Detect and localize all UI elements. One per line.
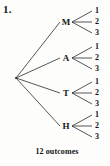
leaf-line-m-3 bbox=[72, 22, 92, 33]
outcomes-caption: 12 outcomes bbox=[35, 148, 78, 156]
tree-diagram-lines bbox=[0, 0, 110, 166]
problem-number-label: 1. bbox=[3, 4, 12, 15]
leaf-line-t-1 bbox=[72, 82, 92, 93]
leaf-label-h-3: 3 bbox=[95, 133, 99, 141]
leaf-label-h-1: 1 bbox=[95, 111, 99, 119]
node-label-a: A bbox=[63, 54, 70, 63]
leaf-line-m-1 bbox=[72, 11, 92, 22]
branch-line-m bbox=[16, 22, 60, 78]
leaf-label-m-2: 2 bbox=[95, 18, 99, 26]
leaf-line-h-3 bbox=[72, 126, 92, 137]
leaf-label-a-1: 1 bbox=[95, 43, 99, 51]
node-label-h: H bbox=[62, 122, 69, 131]
leaf-label-t-3: 3 bbox=[95, 100, 99, 108]
leaf-line-a-1 bbox=[72, 47, 92, 58]
branch-line-a bbox=[16, 58, 60, 78]
leaf-line-t-3 bbox=[72, 93, 92, 104]
leaf-label-a-3: 3 bbox=[95, 65, 99, 73]
leaf-label-t-2: 2 bbox=[95, 89, 99, 97]
node-label-t: T bbox=[63, 89, 69, 98]
leaf-label-m-1: 1 bbox=[95, 7, 99, 15]
leaf-label-h-2: 2 bbox=[95, 122, 99, 130]
leaf-label-m-3: 3 bbox=[95, 29, 99, 37]
leaf-label-t-1: 1 bbox=[95, 78, 99, 86]
tree-diagram-figure: 1. M123A123T123H123 12 outcomes bbox=[0, 0, 110, 166]
leaf-line-h-1 bbox=[72, 115, 92, 126]
leaf-line-a-3 bbox=[72, 58, 92, 69]
node-label-m: M bbox=[62, 18, 71, 27]
leaf-label-a-2: 2 bbox=[95, 54, 99, 62]
